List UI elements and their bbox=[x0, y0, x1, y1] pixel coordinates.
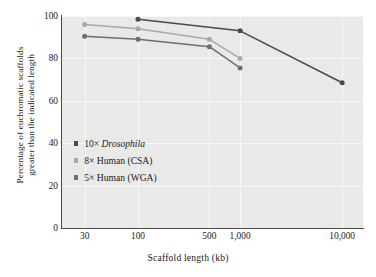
x-tick-label: 1,000 bbox=[210, 231, 270, 241]
legend-label: 10× Drosophila bbox=[84, 138, 145, 149]
gridline-horizontal bbox=[62, 101, 363, 102]
legend-marker-icon bbox=[74, 175, 78, 179]
legend-item[interactable]: 10× Drosophila bbox=[74, 135, 157, 152]
legend-label: 5× Human (WGA) bbox=[84, 172, 157, 183]
gridline-vertical bbox=[138, 16, 139, 228]
plot-area bbox=[62, 16, 363, 228]
legend-item[interactable]: 5× Human (WGA) bbox=[74, 169, 157, 186]
x-tick-label: 100 bbox=[108, 231, 168, 241]
gridline-vertical bbox=[85, 16, 86, 228]
x-axis-title: Scaffold length (kb) bbox=[0, 252, 376, 263]
legend-item[interactable]: 8× Human (CSA) bbox=[74, 152, 157, 169]
y-tick-label: 80 bbox=[18, 53, 58, 63]
x-axis-line bbox=[61, 228, 364, 229]
y-tick-label: 40 bbox=[18, 138, 58, 148]
y-tick-label: 100 bbox=[18, 11, 58, 21]
gridline-vertical bbox=[209, 16, 210, 228]
legend-marker-icon bbox=[74, 158, 78, 162]
gridline-vertical bbox=[342, 16, 343, 228]
y-tick-label: 20 bbox=[18, 181, 58, 191]
gridline-horizontal bbox=[62, 58, 363, 59]
chart-legend: 10× Drosophila8× Human (CSA)5× Human (WG… bbox=[74, 135, 157, 186]
gridline-horizontal bbox=[62, 16, 363, 17]
gridline-vertical bbox=[240, 16, 241, 228]
chart-figure: Percentage of euchromatic scaffolds grea… bbox=[0, 0, 376, 277]
legend-marker-icon bbox=[74, 141, 78, 145]
y-tick-label: 60 bbox=[18, 96, 58, 106]
x-tick-label: 10,000 bbox=[312, 231, 372, 241]
y-tick-label: 0 bbox=[18, 223, 58, 233]
legend-label: 8× Human (CSA) bbox=[84, 155, 152, 166]
x-tick-label: 30 bbox=[55, 231, 115, 241]
